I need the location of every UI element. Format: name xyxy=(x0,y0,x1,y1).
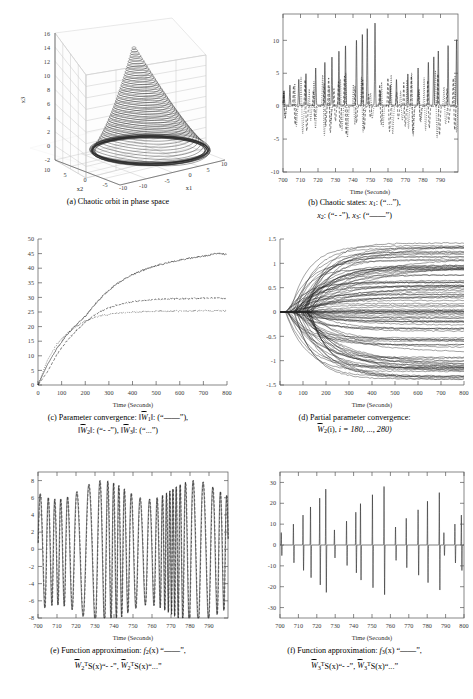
svg-text:-5: -5 xyxy=(102,181,107,188)
svg-text:2: 2 xyxy=(47,128,50,135)
svg-text:790: 790 xyxy=(436,176,445,183)
axis-label-time-b: Time (Seconds) xyxy=(350,188,390,196)
svg-text:730: 730 xyxy=(331,622,340,629)
caption-f-w2rest: S(x)“...” xyxy=(371,661,398,670)
svg-text:-1.5: -1.5 xyxy=(266,381,276,388)
chart-a-svg: 1614 1210 86 42 0-2 x3 105 0-5 -10 x2 -1… xyxy=(0,0,236,195)
svg-text:780: 780 xyxy=(418,176,427,183)
svg-text:770: 770 xyxy=(166,622,175,629)
x-tick-labels-c: 0100200300400500600700800 xyxy=(36,389,231,396)
svg-text:15: 15 xyxy=(28,337,34,344)
svg-text:200: 200 xyxy=(81,389,90,396)
svg-text:-1: -1 xyxy=(271,357,276,364)
svg-text:770: 770 xyxy=(404,622,413,629)
svg-text:100: 100 xyxy=(57,389,66,396)
svg-text:4: 4 xyxy=(47,114,50,121)
caption-d-range: i = 180, ..., 280) xyxy=(339,425,392,434)
svg-text:4: 4 xyxy=(31,511,34,518)
svg-text:800: 800 xyxy=(459,389,468,396)
caption-e-farg: (x) “——”, xyxy=(149,646,186,655)
caption-d-lead: (d) Partial parameter convergence: xyxy=(299,413,411,422)
axes-3d-panes xyxy=(30,18,206,178)
svg-text:0: 0 xyxy=(273,308,276,315)
caption-b-sub3: 3 xyxy=(356,213,359,220)
svg-text:50: 50 xyxy=(28,235,34,242)
y-tick-labels-f: -30-20-100102030 xyxy=(268,479,276,611)
svg-text:45: 45 xyxy=(28,250,34,257)
svg-text:710: 710 xyxy=(294,622,303,629)
caption-d: (d) Partial parameter convergence: W2(i)… xyxy=(240,412,469,436)
svg-text:-10: -10 xyxy=(119,184,127,191)
caption-c-sub3: 3 xyxy=(130,428,133,435)
svg-text:6: 6 xyxy=(31,494,34,501)
caption-c-style2: (“- -”), xyxy=(97,426,119,435)
panel-f-plot: 700710720730740750760770780790800 -30-20… xyxy=(236,466,473,646)
svg-text:16: 16 xyxy=(44,30,50,37)
svg-text:750: 750 xyxy=(128,622,137,629)
panel-d: 0100200300400500600700800 -1.5-1-0.500.5… xyxy=(236,233,473,466)
svg-text:600: 600 xyxy=(413,389,422,396)
y-tick-labels-b: -10-50510 xyxy=(271,37,279,176)
svg-text:500: 500 xyxy=(151,389,160,396)
chart-b-svg: 700710720730740750760770780790 -10-50510… xyxy=(236,0,473,196)
svg-text:30: 30 xyxy=(28,294,34,301)
panel-a: 1614 1210 86 42 0-2 x3 105 0-5 -10 x2 -1… xyxy=(0,0,236,233)
panel-b: 700710720730740750760770780790 -10-50510… xyxy=(236,0,473,233)
panel-c: 0100200300400500600700800 05101520253035… xyxy=(0,233,236,466)
svg-text:720: 720 xyxy=(313,176,322,183)
svg-text:-5: -5 xyxy=(164,177,169,184)
svg-text:1.5: 1.5 xyxy=(268,235,276,242)
chart-e-svg: 700710720730740750760770780790 -8-6-4-20… xyxy=(0,466,236,646)
svg-text:400: 400 xyxy=(367,389,376,396)
weight-traces-d xyxy=(280,243,464,380)
svg-text:8: 8 xyxy=(47,86,50,93)
svg-text:0: 0 xyxy=(83,176,86,183)
approximation-traces-f xyxy=(280,487,464,595)
caption-f-farg: (x) “——”, xyxy=(385,646,422,655)
caption-c-sym3: W xyxy=(123,426,130,435)
caption-f-w2sym: W xyxy=(357,661,364,670)
svg-text:40: 40 xyxy=(28,264,34,271)
svg-text:780: 780 xyxy=(185,622,194,629)
svg-text:740: 740 xyxy=(349,622,358,629)
axis-label-time-d: Time (Seconds) xyxy=(352,401,392,409)
svg-text:20: 20 xyxy=(270,499,276,506)
x-tick-labels-e: 700710720730740750760770780790 xyxy=(33,622,213,629)
chart-d-svg: 0100200300400500600700800 -1.5-1-0.500.5… xyxy=(236,233,473,413)
svg-text:700: 700 xyxy=(33,622,42,629)
caption-d-sym: W xyxy=(317,425,324,434)
convergence-traces-c xyxy=(38,253,226,385)
y-tick-labels-e: -8-6-4-202468 xyxy=(29,477,34,621)
axis-label-time-f: Time (Seconds) xyxy=(352,634,392,642)
svg-text:2: 2 xyxy=(31,528,34,535)
svg-text:400: 400 xyxy=(128,389,137,396)
svg-text:770: 770 xyxy=(401,176,410,183)
svg-text:700: 700 xyxy=(436,389,445,396)
svg-text:0: 0 xyxy=(36,389,39,396)
svg-text:300: 300 xyxy=(344,389,353,396)
caption-f: (f) Function approximation: f3(x) “——”, … xyxy=(240,645,469,673)
caption-c-sym1: W xyxy=(141,413,148,422)
svg-text:200: 200 xyxy=(321,389,330,396)
y-tick-labels-d: -1.5-1-0.500.511.5 xyxy=(266,235,276,388)
svg-text:0: 0 xyxy=(47,142,50,149)
caption-f-w1sym: W xyxy=(311,661,318,670)
svg-text:750: 750 xyxy=(366,176,375,183)
caption-e-w1rest: S(x)“- -”, xyxy=(88,661,119,670)
svg-text:10: 10 xyxy=(270,520,276,527)
caption-c: (c) Parameter convergence: ‖W1‖: (“——”),… xyxy=(4,412,232,438)
plot-frame-b xyxy=(283,14,458,172)
svg-text:-2: -2 xyxy=(45,156,50,163)
caption-a: (a) Chaotic orbit in phase space xyxy=(4,196,232,208)
caption-f-w1rest: S(x)“- -”, xyxy=(325,661,356,670)
caption-b-lead: (b) Chaotic states: xyxy=(308,198,369,207)
x-tick-labels-b: 700710720730740750760770780790 xyxy=(278,176,445,183)
svg-text:10: 10 xyxy=(44,72,50,79)
svg-text:0: 0 xyxy=(278,389,281,396)
svg-text:730: 730 xyxy=(90,622,99,629)
svg-text:0: 0 xyxy=(31,545,34,552)
svg-text:5: 5 xyxy=(31,367,34,374)
svg-text:25: 25 xyxy=(28,308,34,315)
axis-lines-c xyxy=(38,239,227,385)
svg-text:-2: -2 xyxy=(29,563,34,570)
